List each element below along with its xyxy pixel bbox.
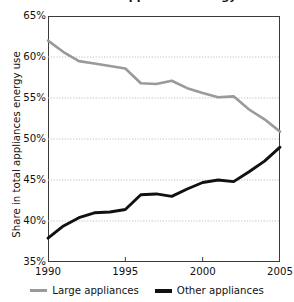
- y-axis-tick-label: 55%: [6, 93, 46, 103]
- y-axis-title: Share in total appliances energy use: [11, 45, 22, 245]
- y-axis-tick-label: 40%: [6, 216, 46, 226]
- chart-container: Share in total appliances energy use Sha…: [0, 0, 294, 302]
- legend-label: Large appliances: [52, 285, 139, 296]
- legend-label: Other appliances: [177, 285, 264, 296]
- legend-item[interactable]: Large appliances: [30, 285, 139, 296]
- x-axis-tick-label: 1990: [23, 266, 73, 277]
- series-line-large-appliances: [48, 41, 280, 132]
- x-axis-tick-label: 2000: [178, 266, 228, 277]
- legend-swatch: [30, 289, 47, 292]
- x-axis-tick-label: 2005: [255, 266, 294, 277]
- y-axis-tick-label: 50%: [6, 134, 46, 144]
- x-axis-tick-label: 1995: [100, 266, 150, 277]
- y-axis-tick-label: 45%: [6, 175, 46, 185]
- series-line-other-appliances: [48, 147, 280, 238]
- chart-title: Share in total appliances energy use: [0, 0, 294, 3]
- legend-swatch: [155, 289, 172, 293]
- x-axis-ticks: [125, 257, 202, 262]
- legend-item[interactable]: Other appliances: [155, 285, 264, 296]
- y-axis-tick-label: 65%: [6, 11, 46, 21]
- plot-svg: [48, 16, 280, 262]
- y-axis-tick-label: 60%: [6, 52, 46, 62]
- chart-legend: Large appliancesOther appliances: [0, 285, 294, 296]
